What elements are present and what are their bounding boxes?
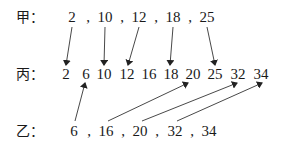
yi-value: 32: [168, 123, 183, 139]
bing-value: 18: [164, 66, 179, 82]
yi-value: 20: [133, 123, 148, 139]
jia-value: 12: [132, 9, 147, 25]
row-label-jia: 甲：: [16, 9, 44, 25]
jia-value: 25: [200, 9, 215, 25]
separator: ,: [155, 123, 159, 139]
jia-value: 2: [68, 9, 76, 25]
bing-value: 16: [142, 66, 157, 82]
row-label-bing: 丙：: [16, 66, 44, 82]
arrow-jia-10: [104, 27, 105, 65]
bing-value: 32: [231, 66, 246, 82]
yi-value: 16: [99, 123, 114, 139]
merge-diagram: 甲： 2 , 10 , 12 , 18 , 25 丙： 2 6 10 12 16…: [0, 0, 286, 146]
arrow-jia-2: [66, 27, 72, 65]
arrow-yi-6: [75, 83, 85, 121]
yi-value: 6: [70, 123, 78, 139]
jia-value: 10: [98, 9, 113, 25]
arrow-yi-16: [108, 83, 188, 121]
yi-value: 34: [202, 123, 217, 139]
separator: ,: [190, 123, 194, 139]
separator: ,: [120, 9, 124, 25]
arrow-jia-18: [170, 27, 173, 65]
arrow-jia-25: [207, 27, 215, 65]
bing-value: 2: [62, 66, 70, 82]
bing-value: 20: [186, 66, 201, 82]
separator: ,: [121, 123, 125, 139]
separator: ,: [188, 9, 192, 25]
row-label-yi: 乙：: [16, 123, 44, 139]
separator: ,: [86, 9, 90, 25]
bing-value: 10: [97, 66, 112, 82]
arrow-jia-12: [128, 27, 139, 65]
bing-value: 12: [120, 66, 135, 82]
bing-value: 34: [254, 66, 269, 82]
bing-value: 25: [208, 66, 223, 82]
separator: ,: [154, 9, 158, 25]
bing-value: 6: [82, 66, 90, 82]
separator: ,: [87, 123, 91, 139]
jia-value: 18: [166, 9, 181, 25]
